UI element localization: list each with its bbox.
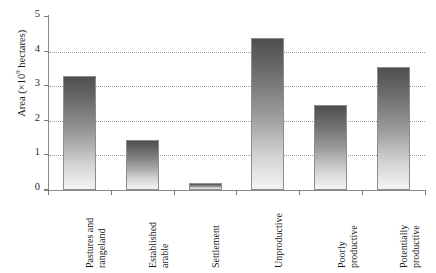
y-axis-tick-label: 5 [26,9,40,20]
y-axis-tick-label: 3 [26,78,40,89]
x-axis-label-line: Unproductive [273,196,285,268]
x-axis-label-line: Potentially [398,196,410,268]
y-axis-title-exponent: 9 [14,70,22,74]
bars-layer [48,17,425,190]
x-axis-label: Potentiallyproductive [398,196,421,268]
x-axis-tick-mark [236,190,237,195]
x-axis-label-line: productive [410,196,422,268]
x-axis-tick-mark [174,190,175,195]
bar-unproductive [251,38,284,190]
x-axis-label-line: productive [347,196,359,268]
x-axis-label-line: Settlement [210,196,222,268]
y-axis-tick-label: 2 [26,113,40,124]
y-axis-tick-label: 0 [26,182,40,193]
y-axis-tick-label: 4 [26,44,40,55]
x-axis-label: Settlement [210,196,222,268]
bar-established-arable [126,140,159,190]
x-axis-label-line: Poorly [336,196,348,268]
bar-potentially-productive [377,67,410,190]
x-axis-label-line: Established [147,196,159,268]
x-axis-tick-mark [299,190,300,195]
x-axis-line [44,190,426,191]
x-axis-label-line: rangeland [96,196,108,268]
bar-settlement [189,183,222,190]
y-axis-tick-label: 1 [26,147,40,158]
x-axis-label: Pastures andrangeland [84,196,107,268]
x-axis-tick-mark [362,190,363,195]
x-axis-label-line: Pastures and [84,196,96,268]
x-axis-tick-mark [48,190,49,195]
bar-poorly-productive [314,105,347,190]
x-axis-label-line: arable [159,196,171,268]
x-axis-label: Establishedarable [147,196,170,268]
bar-chart: Area (×109 hectares) 012345 Pastures and… [0,0,436,273]
x-axis-tick-mark [425,190,426,195]
bar-pastures-and-rangeland [63,76,96,190]
x-axis-label: Poorlyproductive [336,196,359,268]
x-axis-label: Unproductive [273,196,285,268]
x-axis-tick-mark [111,190,112,195]
